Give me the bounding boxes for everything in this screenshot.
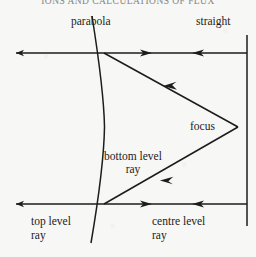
- parabola-curve: [91, 16, 105, 243]
- top-level-ray-label-line2: ray: [31, 229, 46, 242]
- straight-label: straight: [196, 15, 231, 28]
- centre-level-ray-label-line1: centre level: [152, 215, 205, 228]
- reflected-ray-lower-arrowhead: [160, 176, 174, 185]
- parabola-label: parabola: [71, 15, 111, 28]
- reflected-ray-upper: [104, 53, 238, 127]
- top-level-ray-line: [16, 50, 247, 57]
- top-level-ray-label-line1: top level: [31, 215, 71, 228]
- figure-canvas: IONS AND CALCULATIONS OF FLUX: [0, 0, 256, 257]
- centre-level-ray-label-line2: ray: [152, 229, 167, 242]
- reflected-ray-upper-line: [104, 53, 238, 127]
- bottom-horizontal-ray-line: [16, 201, 247, 208]
- bottom-level-ray-label-line1: bottom level: [93, 150, 173, 163]
- bottom-level-ray-label-line2: ray: [93, 163, 173, 176]
- focus-label: focus: [190, 120, 215, 133]
